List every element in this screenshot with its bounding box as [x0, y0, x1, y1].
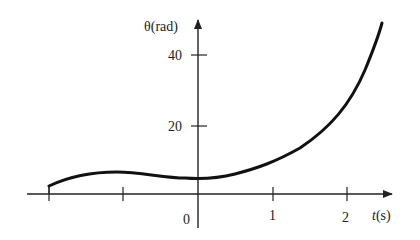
origin-label: 0: [183, 212, 190, 227]
y-tick-label-40: 40: [168, 48, 182, 63]
y-ticks: [191, 55, 207, 126]
x-tick-label-1: 1: [269, 208, 276, 223]
y-axis-label: θ(rad): [144, 19, 178, 35]
x-tick-label-2: 2: [342, 210, 349, 225]
chart-canvas: θ(rad) 40 20 0 1 2 t(s): [0, 0, 420, 240]
x-axis-label: t(s): [372, 208, 391, 224]
theta-curve: [49, 23, 382, 186]
y-tick-label-20: 20: [168, 119, 182, 134]
